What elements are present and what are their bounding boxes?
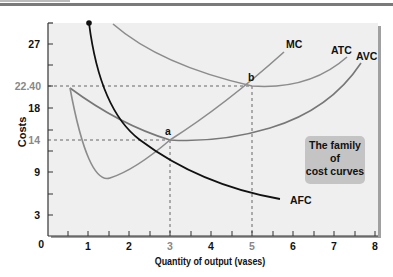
callout-line-3: cost curves [305,165,365,178]
x-tick-labels: 1 2 3 4 5 6 7 8 [85,240,378,252]
y-tick-3: 3 [34,209,40,221]
y-tick-18: 18 [28,102,40,114]
callout-line-1: The family [305,139,365,152]
x-tick-3: 3 [167,240,173,252]
x-tick-1: 1 [85,240,91,252]
y-tick-14: 14 [28,134,40,146]
label-point-b: b [248,71,254,83]
label-atc: ATC [331,44,352,56]
x-tick-4: 4 [208,240,214,252]
y-tick-0: 0 [38,238,44,250]
plot-area [48,23,378,236]
x-tick-6: 6 [290,240,296,252]
x-tick-7: 7 [331,240,337,252]
label-point-a: a [165,125,171,137]
label-afc: AFC [290,194,312,206]
y-tick-9: 9 [34,166,40,178]
chart-callout-box: The family of cost curves [305,136,365,184]
label-avc: AVC [356,50,378,62]
y-tick-22-40: 22.40 [15,80,41,92]
y-tick-27: 27 [28,38,40,50]
x-tick-5: 5 [249,240,255,252]
label-mc: MC [286,38,303,50]
y-axis-label: Costs [16,112,28,152]
x-axis-label: Quantity of output (vases) [134,255,287,267]
afc-start-dot [86,20,92,26]
x-tick-2: 2 [126,240,132,252]
callout-line-2: of [305,152,365,165]
x-tick-8: 8 [372,240,378,252]
